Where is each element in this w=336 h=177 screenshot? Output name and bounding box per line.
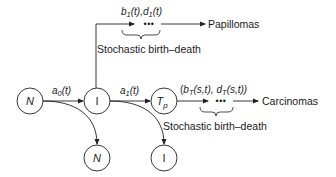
ellipsis-upper: ••• [144, 19, 155, 29]
label-stochastic-upper: Stochastic birth–death [97, 43, 201, 55]
node-label: N [26, 95, 34, 107]
node-initiated-bottom: I [151, 145, 177, 171]
node-normal-bottom: N [84, 145, 110, 171]
ellipsis-lower: ••• [216, 96, 227, 106]
node-tp: Tp [151, 88, 177, 114]
node-label: I [95, 95, 98, 107]
rate-carcinoma: (bT(s,t),dT(s,t)) [180, 84, 247, 97]
brace-lower [200, 107, 233, 116]
rate-papilloma: b1(t),d1(t) [121, 6, 162, 19]
carcinogenesis-diagram: N I Tp N I a0(t) a1(t) ••• Papillomas b1… [0, 0, 336, 177]
node-label: N [93, 152, 101, 164]
node-normal-main: N [17, 88, 43, 114]
arrow-i-to-papilloma-process [96, 24, 134, 88]
rate-a1: a1(t) [120, 85, 139, 98]
node-label: I [162, 152, 165, 164]
outcome-carcinomas: Carcinomas [262, 95, 318, 107]
node-initiated-main: I [84, 88, 110, 114]
outcome-papillomas: Papillomas [208, 18, 259, 30]
rate-a0: a0(t) [52, 85, 71, 98]
label-stochastic-lower: Stochastic birth–death [163, 120, 267, 132]
brace-upper [122, 30, 160, 39]
